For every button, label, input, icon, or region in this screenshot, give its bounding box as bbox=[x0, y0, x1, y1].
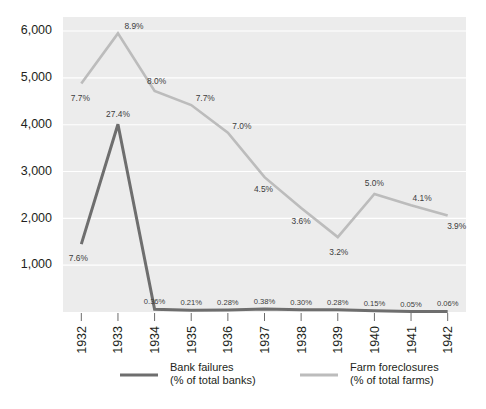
data-point-label: 27.4% bbox=[106, 109, 130, 119]
y-axis-tick-label: 4,000 bbox=[21, 117, 52, 131]
x-axis-tick-label: 1934 bbox=[148, 326, 162, 354]
y-axis-tick-label: 3,000 bbox=[21, 164, 52, 178]
data-point-label: 7.7% bbox=[71, 93, 91, 103]
x-axis-tick-labels: 1932193319341935193619371938193919401941… bbox=[75, 326, 455, 354]
y-axis-tick-labels: 1,0002,0003,0004,0005,0006,000 bbox=[21, 23, 52, 271]
x-axis-tick-label: 1941 bbox=[405, 326, 419, 354]
x-axis-tick-label: 1937 bbox=[258, 326, 272, 354]
data-point-label: 5.0% bbox=[365, 178, 385, 188]
data-point-label: 0.21% bbox=[180, 298, 202, 307]
x-axis-tick-label: 1938 bbox=[295, 326, 309, 354]
x-axis-tick-label: 1939 bbox=[331, 326, 345, 354]
line-chart: 1,0002,0003,0004,0005,0006,000 193219331… bbox=[0, 0, 486, 409]
x-axis-tick-label: 1933 bbox=[111, 326, 125, 354]
chart-legend: Bank failures(% of total banks)Farm fore… bbox=[120, 361, 439, 386]
data-point-label: 7.6% bbox=[69, 253, 89, 263]
data-point-label: 7.0% bbox=[232, 121, 252, 131]
data-point-label: 3.2% bbox=[329, 247, 349, 257]
data-point-label: 0.06% bbox=[437, 299, 459, 308]
legend-label-name: Farm foreclosures bbox=[350, 361, 439, 373]
data-point-label: 7.7% bbox=[196, 93, 216, 103]
y-axis-tick-label: 6,000 bbox=[21, 23, 52, 37]
x-axis-tick-label: 1936 bbox=[221, 326, 235, 354]
data-point-label: 0.28% bbox=[327, 298, 349, 307]
x-axis-ticks bbox=[81, 313, 447, 321]
x-axis-tick-label: 1942 bbox=[441, 326, 455, 354]
data-point-label: 0.15% bbox=[364, 299, 386, 308]
x-axis-tick-label: 1935 bbox=[185, 326, 199, 354]
y-axis-tick-label: 2,000 bbox=[21, 211, 52, 225]
data-point-label: 4.1% bbox=[412, 193, 432, 203]
chart-canvas: 1,0002,0003,0004,0005,0006,000 193219331… bbox=[0, 0, 486, 409]
data-point-label: 3.6% bbox=[292, 216, 312, 226]
plot-background bbox=[63, 17, 466, 312]
x-axis-tick-label: 1932 bbox=[75, 326, 89, 354]
data-point-label: 8.0% bbox=[147, 76, 167, 86]
data-point-label: 8.9% bbox=[124, 21, 144, 31]
data-point-label: 0.28% bbox=[217, 298, 239, 307]
y-axis-tick-label: 1,000 bbox=[21, 257, 52, 271]
legend-label-sublabel: (% of total banks) bbox=[170, 374, 256, 386]
legend-label-name: Bank failures bbox=[170, 361, 234, 373]
legend-label-sublabel: (% of total farms) bbox=[350, 374, 434, 386]
data-point-label: 0.38% bbox=[254, 297, 276, 306]
data-point-label: 0.30% bbox=[290, 298, 312, 307]
data-point-label: 3.9% bbox=[447, 221, 467, 231]
data-point-label: 0.36% bbox=[144, 297, 166, 306]
y-axis-tick-label: 5,000 bbox=[21, 70, 52, 84]
data-point-label: 0.05% bbox=[400, 300, 422, 309]
data-point-label: 4.5% bbox=[254, 184, 274, 194]
x-axis-tick-label: 1940 bbox=[368, 326, 382, 354]
